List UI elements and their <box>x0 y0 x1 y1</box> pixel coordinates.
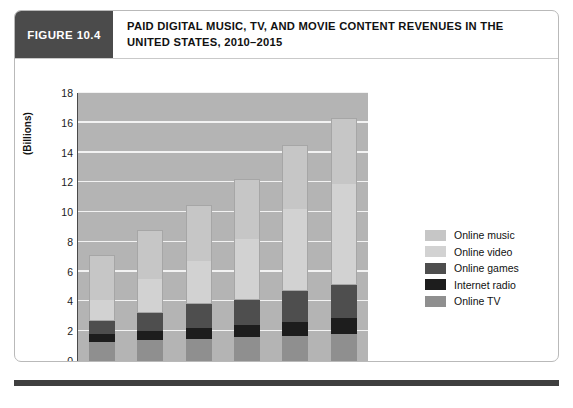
bar-group <box>223 93 271 361</box>
footer-rule <box>14 380 559 386</box>
y-tick-label: 2 <box>45 325 73 337</box>
y-axis-tick-labels: 024681012141618 <box>45 93 73 361</box>
bar-segment-online-tv[interactable] <box>137 340 163 361</box>
legend-item[interactable]: Online TV <box>425 293 553 310</box>
y-tick-label: 10 <box>45 206 73 218</box>
legend-label: Online music <box>454 229 515 241</box>
bar-segment-internet-radio[interactable] <box>331 318 357 334</box>
bar-group <box>126 93 174 361</box>
y-tick-label: 14 <box>45 147 73 159</box>
stacked-bar[interactable] <box>234 179 260 361</box>
bar-segment-internet-radio[interactable] <box>234 325 260 337</box>
bar-segment-internet-radio[interactable] <box>186 328 212 338</box>
y-tick-label: 18 <box>45 87 73 99</box>
bar-segment-online-games[interactable] <box>282 291 308 322</box>
bar-upper-outline <box>137 230 163 313</box>
legend-item[interactable]: Online video <box>425 244 553 261</box>
bar-segment-online-tv[interactable] <box>331 334 357 361</box>
legend-swatch <box>425 279 446 290</box>
bar-segment-online-tv[interactable] <box>186 339 212 361</box>
chart-legend: Online musicOnline videoOnline gamesInte… <box>425 227 553 310</box>
bars-layer <box>78 93 368 361</box>
bar-segment-online-games[interactable] <box>89 321 115 334</box>
legend-item[interactable]: Online music <box>425 227 553 244</box>
legend-item[interactable]: Online games <box>425 260 553 277</box>
bar-segment-online-tv[interactable] <box>89 342 115 361</box>
plot-area <box>77 93 368 362</box>
legend-label: Internet radio <box>454 279 516 291</box>
y-tick-label: 16 <box>45 117 73 129</box>
bar-group <box>175 93 223 361</box>
y-tick-label: 12 <box>45 176 73 188</box>
legend-item[interactable]: Internet radio <box>425 277 553 294</box>
bar-segment-internet-radio[interactable] <box>137 331 163 340</box>
legend-swatch <box>425 296 446 307</box>
y-axis-title: (Billions) <box>22 112 33 155</box>
bar-segment-online-tv[interactable] <box>282 336 308 361</box>
figure-number-tag: FIGURE 10.4 <box>15 11 113 58</box>
bar-segment-online-tv[interactable] <box>234 337 260 361</box>
stacked-bar[interactable] <box>137 230 163 361</box>
bar-upper-outline <box>282 145 308 291</box>
y-tick-label: 6 <box>45 266 73 278</box>
bar-segment-internet-radio[interactable] <box>89 334 115 341</box>
legend-label: Online games <box>454 262 519 274</box>
bar-upper-outline <box>89 255 115 321</box>
bar-segment-online-games[interactable] <box>234 300 260 325</box>
bar-upper-outline <box>331 118 357 285</box>
chart-body: (Billions) 024681012141618 2010201120122… <box>15 59 558 362</box>
bar-group <box>271 93 319 361</box>
figure-container: FIGURE 10.4 PAID DIGITAL MUSIC, TV, AND … <box>14 10 559 362</box>
legend-swatch <box>425 263 446 274</box>
y-tick-label: 4 <box>45 295 73 307</box>
legend-swatch <box>425 246 446 257</box>
bar-upper-outline <box>186 205 212 305</box>
stacked-bar[interactable] <box>186 205 212 361</box>
stacked-bar[interactable] <box>282 145 308 361</box>
bar-group <box>78 93 126 361</box>
stacked-bar[interactable] <box>331 118 357 361</box>
legend-swatch <box>425 230 446 241</box>
y-tick-label: 8 <box>45 236 73 248</box>
legend-label: Online TV <box>454 295 501 307</box>
bar-segment-online-games[interactable] <box>186 304 212 328</box>
figure-title: PAID DIGITAL MUSIC, TV, AND MOVIE CONTEN… <box>127 19 546 51</box>
stacked-bar[interactable] <box>89 255 115 361</box>
figure-title-container: PAID DIGITAL MUSIC, TV, AND MOVIE CONTEN… <box>113 11 558 58</box>
bar-segment-internet-radio[interactable] <box>282 322 308 335</box>
figure-header: FIGURE 10.4 PAID DIGITAL MUSIC, TV, AND … <box>15 11 558 59</box>
legend-label: Online video <box>454 246 512 258</box>
bar-segment-online-games[interactable] <box>137 313 163 331</box>
bar-segment-online-games[interactable] <box>331 285 357 318</box>
bar-group <box>320 93 368 361</box>
y-tick-label: 0 <box>45 355 73 362</box>
bar-upper-outline <box>234 179 260 300</box>
